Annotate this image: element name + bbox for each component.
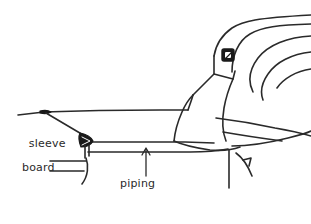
label-sleeve-board: sleeve board: [14, 126, 66, 198]
label-piping: piping: [120, 178, 155, 190]
thimble-icon: [222, 49, 234, 61]
figure-root: sleeve board piping: [0, 0, 311, 224]
label-sleeve-board-line2: board: [22, 162, 66, 174]
label-sleeve-board-line1: sleeve: [29, 137, 66, 150]
